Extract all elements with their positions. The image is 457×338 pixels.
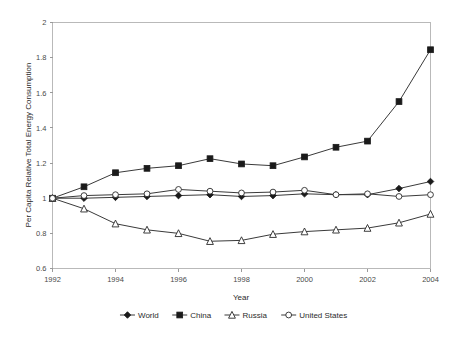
data-point-marker — [365, 138, 371, 144]
data-point-marker — [365, 191, 371, 197]
legend-label: World — [138, 311, 159, 320]
x-tick-label: 2002 — [359, 275, 376, 284]
data-point-marker — [81, 184, 87, 190]
data-point-marker — [113, 170, 119, 176]
x-tick-label: 2004 — [422, 275, 439, 284]
data-point-marker — [50, 195, 56, 201]
data-point-marker — [207, 188, 213, 194]
data-point-marker — [302, 154, 308, 160]
x-axis-title: Year — [233, 293, 250, 302]
data-point-marker — [428, 192, 434, 198]
data-point-marker — [333, 192, 339, 198]
y-tick-label: 1.6 — [36, 89, 46, 98]
x-tick-label: 1994 — [107, 275, 124, 284]
data-point-marker — [396, 194, 402, 200]
data-point-marker — [396, 99, 402, 105]
x-tick-label: 2000 — [296, 275, 313, 284]
data-point-marker — [270, 163, 276, 169]
data-point-marker — [333, 144, 339, 150]
data-point-marker — [176, 163, 182, 169]
chart-background — [0, 0, 457, 338]
line-chart: 0.60.811.21.41.61.82 1992199419961998200… — [0, 0, 457, 338]
legend-label: Russia — [242, 311, 267, 320]
data-point-marker — [239, 190, 245, 196]
data-point-marker — [144, 191, 150, 197]
data-point-marker — [270, 189, 276, 195]
data-point-marker — [144, 165, 150, 171]
data-point-marker — [239, 161, 245, 167]
y-axis-title: Per Capita Relative Total Energy Consump… — [24, 63, 33, 228]
x-tick-label: 1998 — [233, 275, 250, 284]
y-tick-label: 0.6 — [36, 264, 46, 273]
legend-label: China — [190, 311, 211, 320]
y-tick-label: 1.2 — [36, 159, 46, 168]
data-point-marker — [428, 47, 434, 53]
data-point-marker — [176, 187, 182, 193]
data-point-marker — [113, 192, 119, 198]
legend-marker-filled-square — [177, 312, 183, 318]
y-tick-label: 1.8 — [36, 53, 46, 62]
y-tick-label: 1.4 — [36, 124, 46, 133]
data-point-marker — [81, 193, 87, 199]
x-tick-label: 1996 — [170, 275, 187, 284]
legend-marker-open-circle — [286, 312, 292, 318]
y-tick-label: 0.8 — [36, 229, 46, 238]
x-tick-label: 1992 — [44, 275, 61, 284]
data-point-marker — [207, 156, 213, 162]
data-point-marker — [302, 187, 308, 193]
legend-label: United States — [299, 311, 347, 320]
y-tick-label: 2 — [42, 18, 46, 27]
chart-container: 0.60.811.21.41.61.82 1992199419961998200… — [0, 0, 457, 338]
y-tick-label: 1 — [42, 194, 46, 203]
